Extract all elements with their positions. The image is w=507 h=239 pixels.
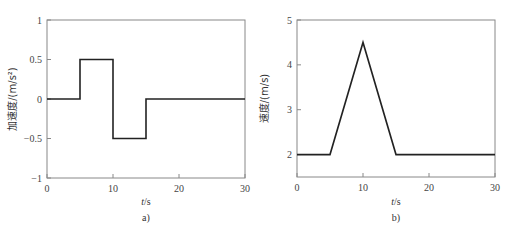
x-tick-label: 10: [358, 182, 368, 193]
chart-panel-b: 01020305432t/s速度/(m/s)b): [258, 15, 500, 225]
x-tick-label: 0: [45, 183, 50, 194]
y-tick-label: 5: [287, 15, 292, 26]
x-tick-label: 20: [424, 182, 434, 193]
panel-label: a): [142, 212, 150, 224]
panel-label: b): [392, 212, 400, 224]
x-tick-label: 20: [174, 183, 184, 194]
x-axis-label: t/s: [141, 196, 151, 207]
data-line-velocity: [297, 42, 495, 154]
x-tick-label: 10: [108, 183, 118, 194]
y-tick-label: 2: [287, 149, 292, 160]
chart-panel-a: 010203010.50−0.5−1t/s加速度/(m/s²)a): [6, 15, 250, 225]
y-tick-label: 0.5: [30, 54, 43, 65]
y-axis-label: 加速度/(m/s²): [6, 67, 18, 131]
y-axis-label: 速度/(m/s): [258, 74, 270, 124]
chart-canvas: 010203010.50−0.5−1t/s加速度/(m/s²)a)0102030…: [0, 0, 507, 239]
x-tick-label: 0: [295, 182, 300, 193]
y-tick-label: 3: [287, 104, 292, 115]
y-tick-label: −0.5: [24, 133, 42, 144]
y-tick-label: 0: [37, 94, 42, 105]
x-tick-label: 30: [490, 182, 500, 193]
data-line-acceleration: [47, 60, 245, 139]
x-tick-label: 30: [240, 183, 250, 194]
y-tick-label: −1: [31, 173, 42, 184]
y-tick-label: 4: [287, 59, 292, 70]
y-tick-label: 1: [37, 15, 42, 26]
x-axis-label: t/s: [391, 196, 401, 207]
